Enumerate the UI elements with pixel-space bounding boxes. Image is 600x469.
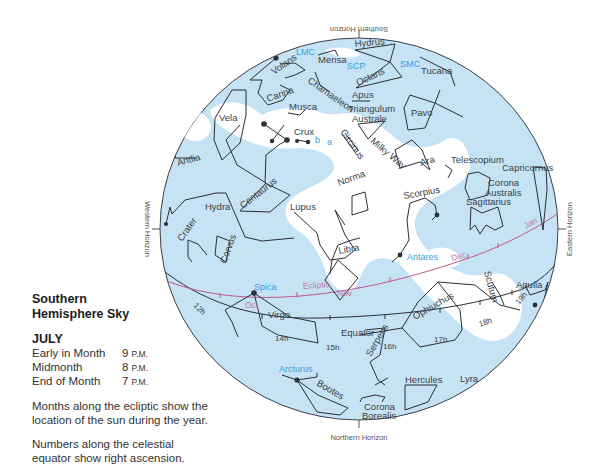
smc-label: SMC [400, 59, 421, 69]
time-row-end: End of Month 7 P.M. [32, 375, 202, 389]
antares-label: Antares [407, 252, 439, 262]
time-label: End of Month [32, 375, 122, 389]
time-suffix: P.M. [132, 349, 148, 359]
label-mensa: Mensa [318, 54, 347, 65]
time-hour: 7 [122, 375, 128, 387]
label-musca: Musca [289, 101, 318, 112]
legend-panel: Southern Hemisphere Sky JULY Early in Mo… [32, 292, 202, 465]
label-lupus: Lupus [290, 201, 316, 212]
alpha-centauri-label: a [327, 137, 332, 147]
time-row-mid: Midmonth 8 P.M. [32, 361, 202, 375]
time-hour: 9 [122, 347, 128, 359]
legend-title-line1: Southern [32, 292, 202, 307]
eastern-horizon-label: Eastern Horizon [565, 202, 574, 256]
month-oct: Oct [245, 300, 259, 310]
label-hydra: Hydra [205, 201, 231, 212]
equator-note: Numbers along the celestial equator show… [32, 437, 212, 465]
ra-14h: 14h [275, 334, 288, 343]
spica-label: Spica [254, 282, 277, 292]
ra-16h: 16h [383, 342, 396, 351]
western-horizon-label: Western Horizon [143, 201, 152, 257]
label-capricornus: Capricornus [502, 162, 553, 173]
lmc-label: LMC [296, 47, 316, 57]
label-tucana: Tucana [421, 65, 453, 76]
ra-17h: 17h [434, 335, 447, 344]
label-crux: Crux [294, 126, 314, 137]
label-telescopium: Telescopium [451, 154, 504, 165]
ra-15h: 15h [326, 343, 339, 352]
time-suffix: P.M. [132, 363, 148, 373]
northern-horizon-label: Northern Horizon [330, 433, 387, 442]
label-vela: Vela [219, 112, 238, 123]
time-label: Midmonth [32, 361, 122, 375]
beta-centauri-label: b [315, 135, 320, 145]
label-apus: Apus [352, 89, 374, 100]
label-australe: Australe [352, 113, 387, 124]
legend-title-line2: Hemisphere Sky [32, 307, 202, 322]
southern-horizon-label: Southern Horizon [330, 25, 388, 34]
legend-month: JULY [32, 332, 202, 347]
time-row-early: Early in Month 9 P.M. [32, 347, 202, 361]
arcturus-label: Arcturus [279, 364, 313, 374]
label-hercules: Hercules [405, 374, 443, 385]
ecliptic-label: Ecliptic [302, 279, 330, 291]
time-label: Early in Month [32, 347, 122, 361]
label-virgo: Virgo [268, 309, 290, 320]
label-lyra: Lyra [460, 373, 479, 384]
label-sagittarius: Sagittarius [466, 196, 511, 207]
label-aquila: Aquila [516, 279, 543, 290]
scp-label: SCP [347, 61, 366, 71]
time-suffix: P.M. [132, 377, 148, 387]
label-pavo: Pavo [411, 107, 433, 118]
time-hour: 8 [122, 361, 128, 373]
ecliptic-note: Months along the ecliptic show the locat… [32, 399, 212, 427]
label-corona-borealis-2: Borealis [362, 410, 397, 421]
equator-label: Equator [341, 327, 374, 338]
month-nov: Nov [337, 288, 353, 298]
